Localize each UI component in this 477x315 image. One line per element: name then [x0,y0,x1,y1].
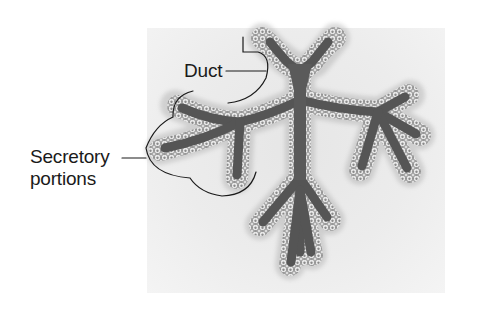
secretory-portions-label: Secretory portions [30,146,110,190]
duct-label: Duct [184,60,222,82]
secretory-label-line1: Secretory [30,146,110,168]
secretory-label-line2: portions [30,168,110,190]
